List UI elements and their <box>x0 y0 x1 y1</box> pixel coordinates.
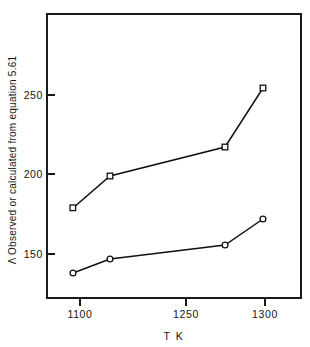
data-point-upper-0 <box>70 205 76 211</box>
x-tick-label-1100: 1100 <box>68 308 93 320</box>
data-point-lower-2 <box>222 242 228 248</box>
series-markers-upper <box>70 85 266 210</box>
series-line-lower <box>73 219 263 273</box>
y-tick-label-200: 200 <box>24 168 43 180</box>
plot-frame <box>47 14 301 298</box>
series-markers-lower <box>70 216 266 276</box>
data-point-upper-2 <box>222 144 228 150</box>
y-tick-label-150: 150 <box>24 248 43 260</box>
x-tick-label-1300: 1300 <box>252 308 278 320</box>
x-tick-label-1250: 1250 <box>173 308 199 320</box>
figure-container: 150 200 250 1100 1250 1300 T K Λ Observe… <box>0 0 310 347</box>
y-tick-label-250: 250 <box>24 89 43 101</box>
y-tick-marks <box>47 95 55 254</box>
y-axis-title: Λ Observed or calculated from equation 5… <box>7 55 18 264</box>
data-point-upper-3 <box>260 85 266 91</box>
data-point-lower-1 <box>107 256 113 262</box>
series-line-upper <box>73 88 263 208</box>
x-axis-title: T K <box>164 330 185 342</box>
data-point-upper-1 <box>107 173 113 179</box>
chart-canvas: 150 200 250 1100 1250 1300 T K Λ Observe… <box>0 0 310 347</box>
x-tick-marks <box>80 298 265 306</box>
data-point-lower-3 <box>260 216 266 222</box>
data-point-lower-0 <box>70 270 76 276</box>
